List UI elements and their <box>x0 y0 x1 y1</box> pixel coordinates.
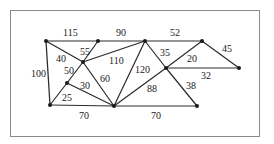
graph-node-I <box>112 104 116 108</box>
graph-node-K <box>195 104 199 108</box>
edge-G-I <box>67 83 114 106</box>
graph-node-B <box>96 39 100 43</box>
edge-weight-label: 115 <box>63 27 78 38</box>
edge-weight-label: 45 <box>222 43 232 54</box>
edge-weight-label: 110 <box>109 55 124 66</box>
edge-weight-label: 50 <box>64 65 74 76</box>
edge-weight-label: 38 <box>186 80 196 91</box>
edge-weight-label: 40 <box>56 53 66 64</box>
edge-weight-label: 55 <box>80 46 90 57</box>
graph-node-E <box>237 66 241 70</box>
edge-A-H <box>46 41 50 105</box>
graph-node-J <box>164 66 168 70</box>
edge-weight-label: 52 <box>170 27 180 38</box>
edge-weight-label: 88 <box>147 83 157 94</box>
edge-weight-label: 60 <box>100 73 110 84</box>
edge-weight-label: 120 <box>135 64 150 75</box>
edge-weight-label: 30 <box>80 80 90 91</box>
edge-weight-label: 35 <box>160 47 170 58</box>
graph-node-D <box>200 39 204 43</box>
edge-weight-label: 70 <box>79 110 89 121</box>
edge-weight-label: 32 <box>201 70 211 81</box>
edge-weight-label: 20 <box>187 53 197 64</box>
graph-node-G <box>65 81 69 85</box>
edge-weight-label: 25 <box>62 92 72 103</box>
edge-weight-label: 70 <box>151 110 161 121</box>
edge-weight-label: 90 <box>116 27 126 38</box>
graph-node-A <box>44 39 48 43</box>
edge-D-E <box>202 41 239 68</box>
edge-H-I <box>50 105 114 106</box>
edge-weight-label: 100 <box>31 68 46 79</box>
weighted-graph: 1159052451004055110506025307012035203288… <box>0 0 274 144</box>
graph-node-C <box>143 39 147 43</box>
graph-node-H <box>48 103 52 107</box>
graph-node-F <box>81 60 85 64</box>
